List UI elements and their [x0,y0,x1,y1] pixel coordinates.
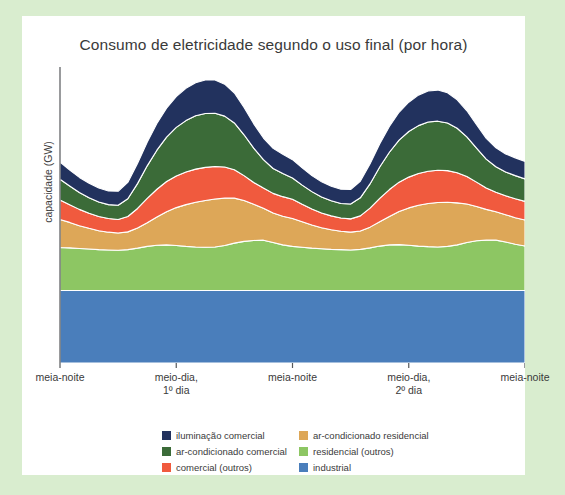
x-axis-tick-label: meio-dia,2º dia [349,371,469,397]
chart-screenshot: Consumo de eletricidade segundo o uso fi… [0,0,565,495]
legend-swatch-icon [162,431,171,440]
x-axis-tick-label: meia-noite [0,371,120,384]
legend-swatch-icon [299,447,308,456]
legend-label: iluminação comercial [176,430,265,441]
legend-item[interactable]: ar-condicionado comercial [162,444,287,458]
legend-swatch-icon [299,463,308,472]
legend-item[interactable]: iluminação comercial [162,428,287,442]
area-series [60,290,525,363]
stacked-area-plot [22,16,525,475]
legend-item[interactable]: residencial (outros) [299,444,429,458]
legend-item[interactable]: industrial [299,460,429,474]
legend-item[interactable]: ar-condicionado residencial [299,428,429,442]
legend-swatch-icon [162,447,171,456]
legend-column-right: ar-condicionado residencialresidencial (… [299,428,429,476]
legend-swatch-icon [299,431,308,440]
legend-label: ar-condicionado comercial [176,446,287,457]
x-axis-tick-label: meio-dia,1º dia [116,371,236,397]
area-series-group [60,80,525,363]
legend-column-left: iluminação comercialar-condicionado come… [162,428,287,476]
legend-swatch-icon [162,463,171,472]
legend-label: ar-condicionado residencial [313,430,429,441]
legend-label: residencial (outros) [313,446,394,457]
x-axis-tick-label: meia-noite [233,371,353,384]
legend-item[interactable]: comercial (outros) [162,460,287,474]
legend-label: comercial (outros) [176,462,252,473]
x-axis-ticks [60,363,525,368]
x-axis-tick-label: meia-noite [465,371,565,384]
legend-label: industrial [313,462,351,473]
chart-panel: Consumo de eletricidade segundo o uso fi… [22,16,525,475]
